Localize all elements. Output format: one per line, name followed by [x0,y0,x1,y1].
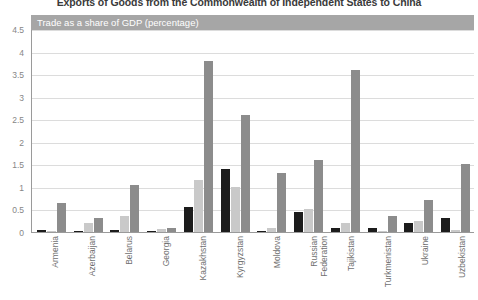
bar-group [401,30,438,232]
bar [404,223,413,232]
bar [74,231,83,232]
bar [231,187,240,232]
bar [37,230,46,232]
x-axis-category-label: Georgia [161,236,171,266]
x-axis-category-label: Kazakhstan [198,236,208,280]
y-axis-tick-label: 0.5 [12,205,24,215]
bar [267,228,276,232]
y-axis-tick-label: 4 [19,48,24,58]
bar [378,231,387,232]
y-axis-tick-label: 2.5 [12,115,24,125]
y-axis-tick-label: 1.5 [12,160,24,170]
y-axis-tick-label: 0 [19,228,24,238]
axis-title-banner: Trade as a share of GDP (percentage) [31,15,474,30]
bar [167,228,176,233]
x-axis-category-label: Kyrgyzstan [235,236,245,278]
x-axis-category-label: Turkmenistan [383,236,393,287]
x-axis-category-label: Ukraine [420,236,430,265]
x-axis-category: Tajikistan [327,234,364,300]
bar [47,231,56,232]
x-axis-category-label: Armenia [50,236,60,268]
y-axis-tick-label: 3.5 [12,70,24,80]
x-axis-category: Azerbaijan [69,234,106,300]
bar [304,209,313,232]
x-axis: ArmeniaAzerbaijanBelarusGeorgiaKazakhsta… [32,234,475,300]
y-axis-tick-label: 2 [19,138,24,148]
bar [184,207,193,232]
y-axis-tick-label: 4.5 [12,25,24,35]
x-axis-category: Belarus [106,234,143,300]
bar [451,230,460,232]
chart-figure: Exports of Goods from the Commonwealth o… [0,0,478,300]
x-axis-category: Moldova [254,234,291,300]
bar-group [290,30,327,232]
bar [331,228,340,233]
bar [414,221,423,232]
bar [204,61,213,232]
x-axis-category-label: Azerbaijan [87,236,97,276]
y-axis: 00.511.522.533.544.5 [0,30,28,233]
bar-group [143,30,180,232]
bar-group [437,30,474,232]
bar [130,185,139,232]
bar [157,229,166,232]
x-axis-category: Kyrgyzstan [217,234,254,300]
x-axis-category: Kazakhstan [180,234,217,300]
bar [314,160,323,232]
bar [194,180,203,232]
x-axis-category-label: Russian Federation [309,236,329,298]
bar-group [327,30,364,232]
x-axis-category: Ukraine [401,234,438,300]
plot-area [31,30,474,233]
bar [461,164,470,232]
bar-group [107,30,144,232]
x-axis-category: Armenia [32,234,69,300]
x-axis-category: Uzbekistan [438,234,475,300]
bar-groups [33,30,474,232]
bar [341,223,350,232]
bar [120,216,129,232]
bar [441,218,450,232]
bar [424,200,433,232]
y-axis-tick-label: 3 [19,93,24,103]
x-axis-category-label: Belarus [124,236,134,265]
x-axis-category-label: Uzbekistan [457,236,467,278]
bar [368,228,377,233]
chart-title: Exports of Goods from the Commonwealth o… [0,0,478,8]
bar [110,230,119,232]
x-axis-category: Turkmenistan [364,234,401,300]
x-axis-category-label: Moldova [272,236,282,268]
bar-group [180,30,217,232]
x-axis-category: Georgia [143,234,180,300]
bar [277,173,286,232]
bar [294,212,303,232]
bar [94,218,103,232]
bar [57,203,66,232]
bar-group [217,30,254,232]
bar-group [70,30,107,232]
bar-group [364,30,401,232]
bar [147,231,156,232]
bar [221,169,230,232]
bar [351,70,360,232]
bar [241,115,250,232]
bar [84,223,93,232]
bar [257,231,266,232]
bar-group [254,30,291,232]
y-axis-tick-label: 1 [19,183,24,193]
x-axis-category: Russian Federation [290,234,327,300]
bar-group [33,30,70,232]
bar [388,216,397,232]
x-axis-category-label: Tajikistan [346,236,356,271]
